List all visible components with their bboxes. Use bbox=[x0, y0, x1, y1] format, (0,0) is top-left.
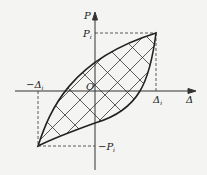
x-axis-label: Δ bbox=[185, 94, 193, 105]
hysteresis-loop bbox=[38, 33, 156, 146]
hysteresis-diagram: P Pi −Δi O Δi Δ −Pi bbox=[0, 0, 207, 175]
p-neg-label: −Pi bbox=[98, 141, 115, 153]
origin-label: O bbox=[86, 81, 94, 92]
p-pos-label: Pi bbox=[82, 28, 92, 40]
y-axis-label: P bbox=[83, 10, 91, 21]
d-pos-label: Δi bbox=[152, 94, 162, 106]
d-neg-label: −Δi bbox=[26, 79, 44, 91]
guide-lines bbox=[38, 33, 156, 146]
